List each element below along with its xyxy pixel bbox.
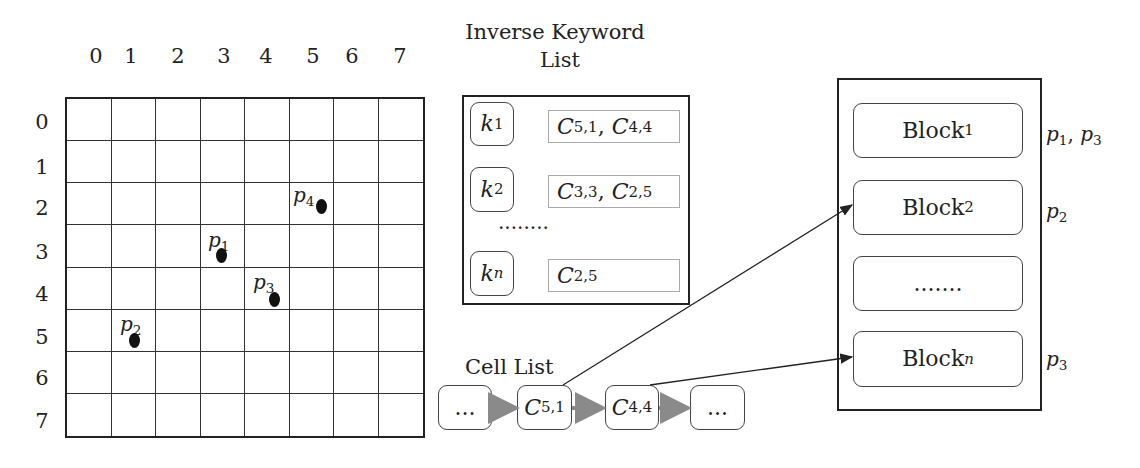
pointer-c44-blockn <box>650 357 852 385</box>
connector-arrows <box>0 0 1140 468</box>
pointer-c51-block2 <box>563 205 852 385</box>
